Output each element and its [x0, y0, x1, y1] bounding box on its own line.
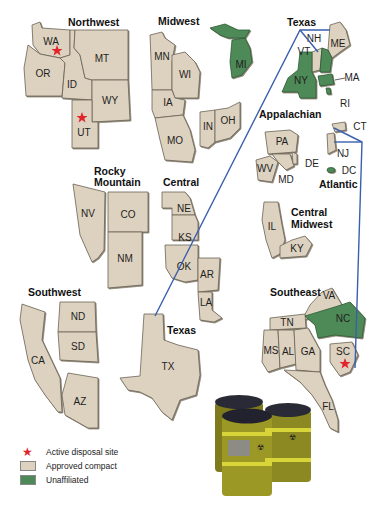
legend-item-active: ★ Active disposal site: [18, 445, 118, 459]
region-label-texas-bottom: Texas: [167, 324, 196, 336]
state-label-mn: MN: [154, 51, 170, 62]
state-label-in: IN: [203, 121, 213, 132]
approved-swatch-icon: [20, 461, 36, 471]
region-label-central-midwest-1: Central: [291, 206, 327, 218]
state-label-al: AL: [282, 346, 295, 357]
legend-item-approved: Approved compact: [18, 459, 118, 473]
state-label-ma: MA: [345, 72, 360, 83]
state-label-pa: PA: [276, 136, 289, 147]
state-label-ny: NY: [294, 75, 308, 86]
state-label-tn: TN: [280, 317, 293, 328]
legend-label-unaffiliated: Unaffiliated: [46, 475, 88, 485]
state-label-vt: VT: [298, 46, 311, 57]
region-rocky-mountain: [73, 184, 148, 288]
state-label-oh: OH: [221, 115, 236, 126]
region-label-midwest: Midwest: [158, 15, 200, 27]
legend: ★ Active disposal site Approved compact …: [18, 445, 118, 487]
state-label-co: CO: [121, 209, 136, 220]
region-label-southwest: Southwest: [28, 286, 82, 298]
star-icon: ★: [18, 445, 36, 459]
svg-text:☢: ☢: [289, 433, 296, 442]
state-label-ri: RI: [340, 98, 350, 109]
compact-map: Northwest WA OR ID MT WY UT Midwest MN W…: [0, 0, 377, 505]
state-de: [292, 152, 297, 164]
state-label-id: ID: [67, 79, 77, 90]
region-label-rocky-2: Mountain: [94, 176, 141, 188]
state-label-la: LA: [200, 297, 213, 308]
state-label-nd: ND: [71, 311, 85, 322]
state-label-or: OR: [36, 68, 51, 79]
state-nj: [327, 133, 336, 154]
state-label-nc: NC: [336, 313, 350, 324]
state-label-nj: NJ: [337, 148, 349, 159]
state-label-dc: DC: [342, 165, 356, 176]
region-label-appalachian: Appalachian: [259, 108, 321, 120]
region-label-atlantic: Atlantic: [319, 178, 358, 190]
state-label-ca: CA: [31, 355, 45, 366]
state-dc: [327, 168, 335, 173]
state-label-ne: NE: [177, 203, 191, 214]
state-label-wv: WV: [257, 163, 273, 174]
region-central: [162, 192, 222, 322]
state-ri: [326, 88, 331, 94]
region-label-texas-top: Texas: [287, 16, 316, 28]
waste-barrels-illustration: ☢ ☢: [215, 395, 311, 496]
state-label-az: AZ: [74, 396, 87, 407]
state-label-mo: MO: [167, 135, 183, 146]
state-label-ok: OK: [177, 261, 192, 272]
legend-item-unaffiliated: Unaffiliated: [18, 473, 118, 487]
state-label-mi: MI: [235, 59, 246, 70]
state-label-nv: NV: [81, 208, 95, 219]
state-label-ga: GA: [301, 346, 316, 357]
state-label-ks: KS: [178, 232, 192, 243]
state-label-nm: NM: [117, 253, 133, 264]
state-label-va: VA: [323, 290, 336, 301]
state-label-md: MD: [278, 174, 294, 185]
region-label-northwest: Northwest: [68, 16, 120, 28]
legend-label-active: Active disposal site: [46, 447, 118, 457]
state-label-mt: MT: [95, 53, 109, 64]
state-label-me: ME: [331, 38, 346, 49]
state-label-wi: WI: [179, 69, 191, 80]
state-label-ms: MS: [264, 345, 279, 356]
region-label-central-midwest-2: Midwest: [291, 218, 333, 230]
state-label-ia: IA: [163, 97, 173, 108]
state-label-wa: WA: [43, 36, 59, 47]
region-label-central: Central: [163, 176, 199, 188]
legend-label-approved: Approved compact: [46, 461, 117, 471]
unaffiliated-swatch-icon: [20, 475, 36, 485]
state-label-wy: WY: [102, 95, 118, 106]
state-label-sd: SD: [71, 341, 85, 352]
state-label-ky: KY: [290, 243, 304, 254]
state-label-ut: UT: [77, 127, 90, 138]
state-label-fl: FL: [322, 401, 334, 412]
state-label-sc: SC: [336, 346, 350, 357]
state-label-il: IL: [268, 221, 277, 232]
state-label-nh: NH: [307, 33, 321, 44]
region-midwest: [150, 24, 252, 162]
region-label-southeast: Southeast: [270, 286, 321, 298]
state-label-tx: TX: [162, 361, 175, 372]
state-label-ct: CT: [353, 121, 366, 132]
state-label-ar: AR: [200, 269, 214, 280]
state-nv: [73, 184, 105, 262]
state-label-de: DE: [305, 158, 319, 169]
svg-text:☢: ☢: [257, 443, 264, 452]
state-ma: [318, 74, 334, 86]
